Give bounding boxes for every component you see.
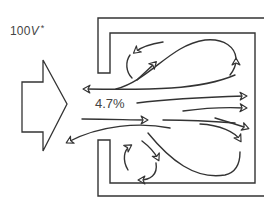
lower-loop-arrow xyxy=(200,124,240,140)
center-flow-5 xyxy=(215,118,247,128)
upper-eddy-curve xyxy=(127,55,132,78)
airflow-diagram: 100V* 4.7% xyxy=(0,0,264,210)
upper-loop-flow xyxy=(116,40,236,89)
percent-label: 4.7% xyxy=(95,96,125,111)
upper-return-flow xyxy=(85,75,235,89)
lower-eddy-diag xyxy=(142,141,158,159)
upper-eddy-arrow-1 xyxy=(135,42,163,52)
lower-loop-flow xyxy=(148,133,240,176)
center-flow-3 xyxy=(82,119,146,120)
upper-eddy-arrow-2 xyxy=(137,63,155,80)
lower-return-flow xyxy=(68,125,170,142)
velocity-mark: * xyxy=(41,23,45,33)
center-flow-1 xyxy=(137,96,245,103)
center-flow-2 xyxy=(183,108,245,111)
velocity-label: 100V* xyxy=(10,23,45,38)
upper-loop-arrow xyxy=(230,60,236,75)
lower-eddy-curve xyxy=(140,163,156,180)
lower-eddy-up xyxy=(124,146,130,170)
velocity-value: 100 xyxy=(10,24,31,38)
inlet-arrow-icon xyxy=(22,60,67,151)
velocity-unit: V xyxy=(31,24,39,38)
